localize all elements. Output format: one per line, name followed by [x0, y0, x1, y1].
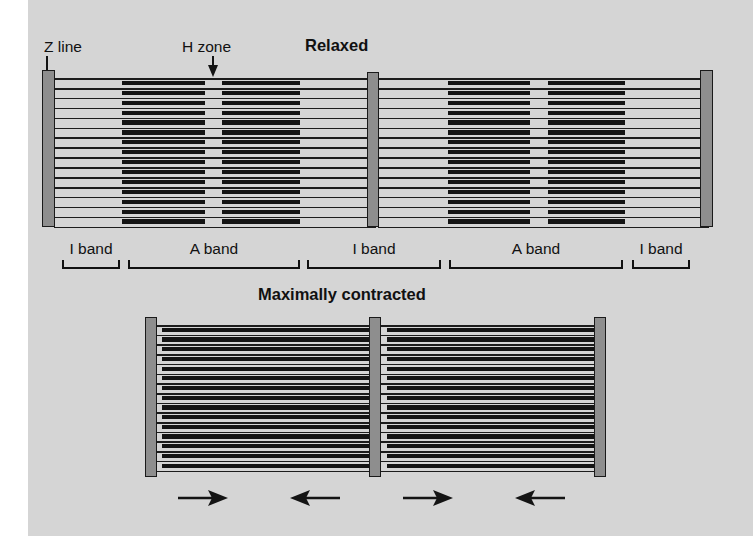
thick-filament	[122, 210, 205, 214]
thick-filament	[548, 91, 625, 95]
thick-filament	[162, 347, 369, 351]
thin-filament	[381, 383, 604, 385]
thick-filament	[548, 210, 625, 214]
thin-filament	[381, 393, 604, 395]
thick-filament	[548, 190, 625, 194]
thick-filament	[122, 200, 205, 204]
thin-filament	[381, 441, 604, 443]
thick-filament	[222, 190, 300, 194]
thick-filament	[548, 111, 625, 115]
thick-filament	[162, 386, 369, 390]
thin-filament	[54, 78, 376, 80]
thin-filament	[381, 364, 604, 366]
thin-filament	[54, 128, 376, 130]
z-line-middle-relaxed	[367, 72, 379, 227]
thick-filament	[448, 101, 530, 105]
thin-filament	[381, 344, 604, 346]
thick-filament	[448, 111, 530, 115]
thick-filament	[387, 444, 594, 448]
band-label-a-2: A band	[449, 240, 623, 258]
band-bracket-a-1	[128, 260, 300, 269]
thin-filament	[156, 412, 379, 414]
band-bracket-i-2	[307, 260, 441, 269]
thin-filament	[54, 167, 376, 169]
thick-filament	[162, 328, 369, 332]
thick-filament	[448, 190, 530, 194]
thin-filament	[156, 403, 379, 405]
thick-filament	[122, 130, 205, 134]
thin-filament	[381, 422, 604, 424]
thick-filament	[162, 425, 369, 429]
thin-filament	[54, 108, 376, 110]
thin-filament	[381, 412, 604, 414]
thick-filament	[548, 200, 625, 204]
band-bracket-i-3	[632, 260, 690, 269]
thick-filament	[122, 111, 205, 115]
thick-filament	[387, 328, 594, 332]
thick-filament	[222, 91, 300, 95]
thick-filament	[548, 130, 625, 134]
thin-filament	[381, 461, 604, 463]
contracted-title: Maximally contracted	[258, 285, 426, 304]
thick-filament	[387, 347, 594, 351]
thin-filament	[378, 118, 709, 120]
thin-filament	[54, 197, 376, 199]
thick-filament	[162, 434, 369, 438]
relaxed-title: Relaxed	[305, 36, 368, 55]
thick-filament	[162, 454, 369, 458]
thin-filament	[378, 108, 709, 110]
thin-filament	[156, 393, 379, 395]
thick-filament	[222, 140, 300, 144]
thick-filament	[222, 180, 300, 184]
thick-filament	[162, 367, 369, 371]
thick-filament	[448, 120, 530, 124]
band-bracket-a-2	[449, 260, 623, 269]
thick-filament	[222, 150, 300, 154]
thin-filament	[378, 217, 709, 219]
thin-filament	[54, 207, 376, 209]
thick-filament	[548, 150, 625, 154]
thin-filament	[378, 157, 709, 159]
thin-filament	[378, 177, 709, 179]
h-zone-label: H zone	[182, 38, 231, 56]
thick-filament	[448, 180, 530, 184]
thick-filament	[222, 101, 300, 105]
thin-filament	[156, 364, 379, 366]
thick-filament	[387, 405, 594, 409]
thick-filament	[387, 386, 594, 390]
thick-filament	[122, 160, 205, 164]
thin-filament	[378, 128, 709, 130]
thick-filament	[448, 219, 530, 223]
z-line-right-contracted	[594, 317, 606, 477]
thick-filament	[387, 464, 594, 468]
thick-filament	[162, 444, 369, 448]
thin-filament	[378, 88, 709, 90]
thin-filament	[54, 227, 376, 229]
thick-filament	[122, 219, 205, 223]
thick-filament	[387, 425, 594, 429]
thin-filament	[54, 157, 376, 159]
thick-filament	[122, 91, 205, 95]
band-label-i-1: I band	[60, 240, 122, 258]
thin-filament	[156, 344, 379, 346]
thick-filament	[122, 120, 205, 124]
thick-filament	[162, 337, 369, 341]
thin-filament	[381, 432, 604, 434]
thick-filament	[222, 130, 300, 134]
thick-filament	[448, 200, 530, 204]
z-line-label: Z line	[44, 38, 82, 56]
thick-filament	[162, 405, 369, 409]
thick-filament	[387, 367, 594, 371]
thick-filament	[122, 101, 205, 105]
thin-filament	[381, 471, 604, 473]
thick-filament	[122, 190, 205, 194]
thick-filament	[162, 357, 369, 361]
thick-filament	[448, 170, 530, 174]
thin-filament	[381, 451, 604, 453]
thick-filament	[222, 219, 300, 223]
thin-filament	[378, 227, 709, 229]
thick-filament	[387, 415, 594, 419]
thin-filament	[378, 147, 709, 149]
thick-filament	[387, 454, 594, 458]
thick-filament	[122, 180, 205, 184]
